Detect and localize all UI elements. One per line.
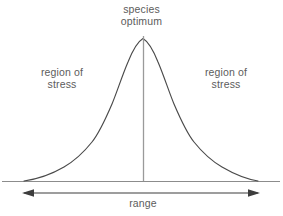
region-of-stress-left-line1: region of: [20, 66, 104, 78]
range-arrowhead-right: [248, 189, 260, 197]
region-of-stress-right-label: region of stress: [184, 66, 268, 90]
species-optimum-label-line1: species: [0, 3, 283, 15]
region-of-stress-left-line2: stress: [20, 78, 104, 90]
species-performance-curve: [24, 39, 258, 182]
region-of-stress-right-line1: region of: [184, 66, 268, 78]
species-optimum-label: species optimum: [0, 3, 283, 27]
range-arrowhead-left: [22, 189, 34, 197]
region-of-stress-left-label: region of stress: [20, 66, 104, 90]
range-arrow: [22, 189, 260, 197]
figure-canvas: [0, 0, 283, 216]
range-label: range: [103, 197, 183, 209]
region-of-stress-right-line2: stress: [184, 78, 268, 90]
species-tolerance-curve-figure: species optimum region of stress region …: [0, 0, 283, 216]
species-optimum-label-line2: optimum: [0, 15, 283, 27]
